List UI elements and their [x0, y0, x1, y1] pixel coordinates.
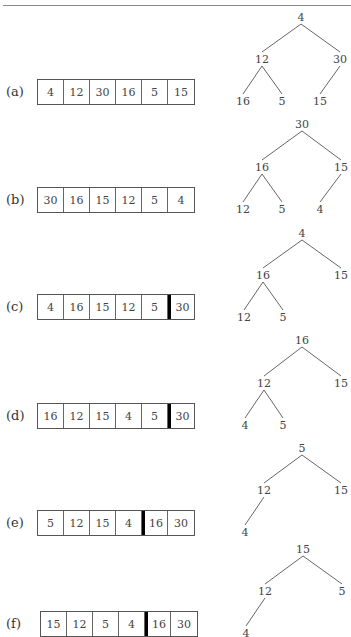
array-cell: 15 [90, 404, 116, 428]
top-rule [3, 5, 351, 6]
step-label: (d) [6, 408, 24, 423]
tree-node: 12 [257, 484, 271, 497]
tree-edge [302, 240, 341, 268]
array-cell-sorted: 16 [142, 511, 168, 535]
tree-node: 16 [256, 269, 270, 282]
step-label: (b) [6, 192, 24, 207]
array-row: 15 12 5 4 16 30 [40, 611, 198, 637]
array-cell-sorted: 30 [168, 295, 194, 319]
tree-node: 12 [236, 203, 250, 216]
tree-node: 4 [298, 11, 305, 24]
array-cell: 4 [119, 612, 145, 636]
tree-edge [262, 66, 282, 94]
tree-edge [320, 174, 341, 202]
tree-node: 5 [280, 419, 287, 432]
tree-edge [263, 282, 283, 310]
array-cell: 12 [64, 404, 90, 428]
tree-node: 15 [296, 543, 310, 556]
tree-edge [263, 240, 302, 268]
tree-node: 16 [236, 95, 250, 108]
tree-node: 5 [279, 203, 286, 216]
array-cell: 15 [90, 511, 116, 535]
array-cell: 4 [38, 295, 64, 319]
array-cell: 12 [116, 295, 142, 319]
tree-edge [264, 347, 302, 376]
tree-edge [265, 556, 303, 584]
array-cell: 5 [93, 612, 119, 636]
array-cell-sorted: 16 [145, 612, 171, 636]
tree-node: 5 [280, 311, 287, 324]
tree-edge [302, 347, 341, 376]
tree-node: 30 [333, 53, 347, 66]
array-cell: 12 [64, 80, 90, 104]
array-row: 5 12 15 4 16 30 [37, 510, 195, 536]
array-cell: 15 [41, 612, 67, 636]
tree-node: 5 [339, 585, 346, 598]
tree-node: 15 [334, 269, 348, 282]
array-cell: 12 [64, 511, 90, 535]
array-cell: 4 [116, 404, 142, 428]
step-label: (a) [6, 84, 24, 99]
array-cell-sorted: 30 [171, 612, 197, 636]
array-cell: 5 [142, 295, 168, 319]
array-cell: 4 [168, 188, 194, 212]
tree-edge [320, 66, 340, 94]
array-cell: 30 [38, 188, 64, 212]
array-cell: 12 [67, 612, 93, 636]
array-cell: 16 [38, 404, 64, 428]
tree-node: 15 [334, 377, 348, 390]
tree-edge [264, 455, 302, 483]
step-label: (e) [6, 515, 24, 530]
tree-edge [245, 497, 264, 525]
array-cell: 16 [116, 80, 142, 104]
tree-edge [302, 131, 341, 160]
array-row: 4 12 30 16 5 15 [37, 79, 195, 105]
tree-node: 5 [299, 442, 306, 455]
array-cell: 15 [90, 295, 116, 319]
tree-edge [301, 24, 340, 52]
tree-node: 16 [295, 334, 309, 347]
tree-node: 30 [295, 118, 309, 131]
array-cell: 5 [142, 404, 168, 428]
tree-node: 15 [334, 484, 348, 497]
tree-edge [262, 131, 302, 160]
array-cell: 16 [64, 295, 90, 319]
array-cell: 4 [116, 511, 142, 535]
tree-edge [262, 174, 282, 202]
array-cell: 5 [142, 80, 168, 104]
array-cell: 5 [142, 188, 168, 212]
step-label: (c) [6, 299, 23, 314]
array-cell-sorted: 30 [168, 511, 194, 535]
tree-node: 4 [243, 627, 250, 637]
tree-node: 4 [242, 419, 249, 432]
tree-node: 5 [279, 95, 286, 108]
array-row: 16 12 15 4 5 30 [37, 403, 195, 429]
tree-edge [302, 455, 341, 483]
array-row: 4 16 15 12 5 30 [37, 294, 195, 320]
tree-node: 15 [313, 95, 327, 108]
tree-edge [245, 390, 264, 418]
tree-edge [243, 174, 262, 202]
array-cell: 16 [64, 188, 90, 212]
array-cell: 4 [38, 80, 64, 104]
array-cell: 12 [116, 188, 142, 212]
array-cell: 30 [90, 80, 116, 104]
array-cell-sorted: 30 [168, 404, 194, 428]
tree-node: 12 [255, 53, 269, 66]
array-cell: 5 [38, 511, 64, 535]
tree-edge [246, 598, 265, 626]
tree-node: 4 [242, 526, 249, 539]
tree-edge [303, 556, 342, 584]
tree-node: 15 [334, 161, 348, 174]
tree-edge [264, 390, 283, 418]
tree-edge [243, 66, 262, 94]
tree-node: 16 [255, 161, 269, 174]
tree-edge [262, 24, 301, 52]
array-cell: 15 [168, 80, 194, 104]
step-label: (f) [6, 616, 21, 631]
tree-node: 12 [237, 311, 251, 324]
tree-node: 12 [257, 377, 271, 390]
array-cell: 15 [90, 188, 116, 212]
array-row: 30 16 15 12 5 4 [37, 187, 195, 213]
tree-edge [244, 282, 263, 310]
